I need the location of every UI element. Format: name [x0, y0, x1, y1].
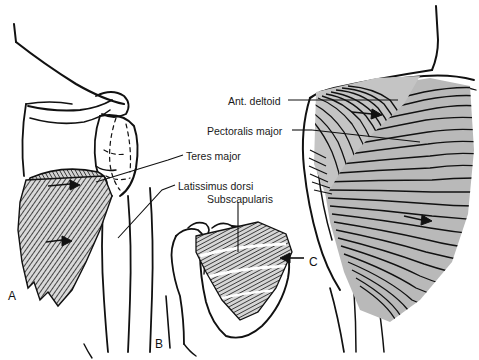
label-pectoralis-major: Pectoralis major: [207, 126, 282, 137]
panel-letter-a: A: [8, 290, 16, 302]
panel-letter-b: B: [155, 338, 163, 350]
label-latissimus-dorsi: Latissimus dorsi: [178, 181, 253, 192]
label-subscapularis: Subscapularis: [207, 194, 273, 205]
anatomy-figure: Ant. deltoid Pectoralis major Teres majo…: [0, 0, 479, 360]
label-teres-major: Teres major: [186, 151, 241, 162]
label-ant-deltoid: Ant. deltoid: [228, 96, 281, 107]
panel-letter-c: C: [309, 256, 318, 268]
